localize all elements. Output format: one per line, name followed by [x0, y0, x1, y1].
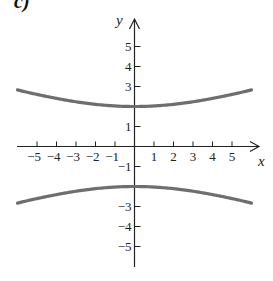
axes: [17, 19, 259, 267]
y-tick-label: −4: [118, 219, 132, 234]
x-tick-label: −4: [47, 149, 61, 164]
y-tick-label: −1: [118, 159, 132, 174]
y-tick-label: 3: [125, 79, 132, 94]
x-tick-label: 2: [170, 149, 177, 164]
y-axis-label: y: [114, 12, 123, 28]
hyperbola-graph: c) −5−4−3−2−1123455431−1−3−4−5 y x: [0, 0, 273, 281]
y-tick-label: −5: [118, 239, 132, 254]
x-tick-label: 5: [229, 149, 236, 164]
part-label: c): [14, 0, 30, 13]
x-tick-label: 3: [190, 149, 197, 164]
x-tick-label: −2: [86, 149, 100, 164]
y-tick-label: 4: [125, 59, 132, 74]
x-tick-label: −3: [66, 149, 80, 164]
x-tick-label: 1: [151, 149, 158, 164]
x-tick-label: −5: [27, 149, 41, 164]
y-tick-label: 5: [125, 39, 132, 54]
y-tick-label: −3: [118, 199, 132, 214]
y-tick-label: 1: [125, 119, 132, 134]
x-tick-label: 4: [209, 149, 216, 164]
x-axis-label: x: [257, 153, 265, 169]
